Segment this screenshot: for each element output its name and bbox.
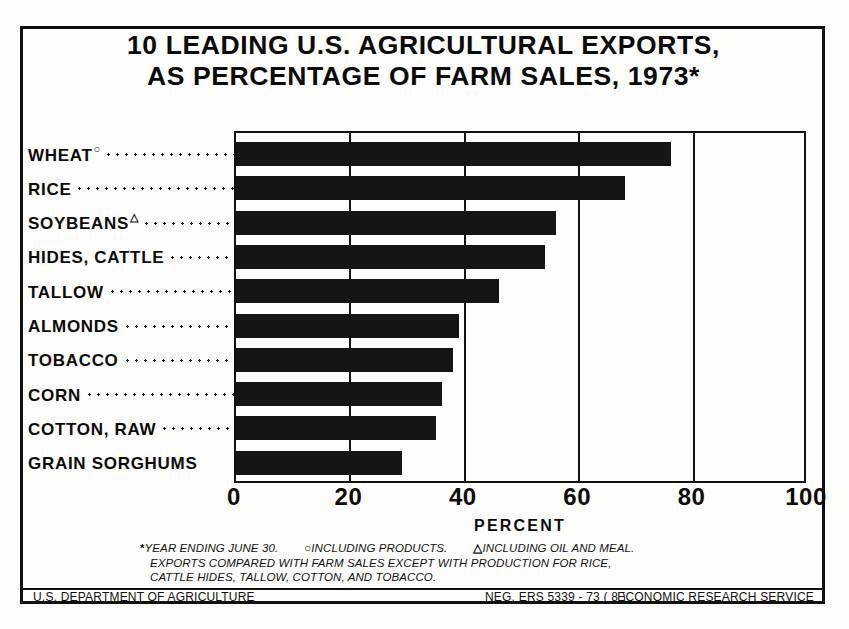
leader-dots — [85, 393, 234, 396]
bar-series — [236, 133, 804, 481]
leader-dots — [160, 427, 234, 430]
category-label-row: CORN — [28, 378, 234, 412]
bar — [236, 314, 459, 338]
plot-area — [234, 131, 806, 483]
footnote-line-2: EXPORTS COMPARED WITH FARM SALES EXCEPT … — [150, 556, 780, 571]
leader-dots — [123, 359, 234, 362]
leader-dots — [104, 153, 234, 156]
footer-neg-number: NEG. ERS 5339 - 73 ( 8 ) — [485, 590, 626, 604]
footer-service: ECONOMIC RESEARCH SERVICE — [617, 590, 814, 604]
category-label: CORN — [28, 387, 81, 404]
x-tick-label: 60 — [563, 483, 591, 511]
leader-dots — [75, 187, 234, 190]
x-axis-title: PERCENT — [234, 517, 806, 535]
title-line-1: 10 LEADING U.S. AGRICULTURAL EXPORTS, — [127, 30, 720, 60]
leader-dots — [142, 222, 234, 225]
category-label-row: COTTON, RAW — [28, 412, 234, 446]
bar — [236, 245, 545, 269]
footnote-triangle-text: INCLUDING OIL AND MEAL. — [482, 542, 634, 554]
category-label: COTTON, RAW — [28, 421, 156, 438]
bar — [236, 142, 671, 166]
circle-footnote-icon: ○ — [94, 144, 101, 155]
chart-page: 10 LEADING U.S. AGRICULTURAL EXPORTS, AS… — [0, 0, 849, 629]
page-title: 10 LEADING U.S. AGRICULTURAL EXPORTS, AS… — [26, 30, 821, 92]
footer-agency: U.S. DEPARTMENT OF AGRICULTURE — [33, 590, 255, 604]
category-label: RICE — [28, 181, 71, 198]
bar — [236, 176, 625, 200]
footnote-line-1: *YEAR ENDING JUNE 30.○INCLUDING PRODUCTS… — [140, 541, 780, 556]
leader-dots — [168, 256, 234, 259]
category-label-row: WHEAT○ — [28, 138, 234, 172]
category-label: SOYBEANS — [28, 215, 129, 232]
category-label-row: RICE — [28, 172, 234, 206]
category-label: GRAIN SORGHUMS — [28, 455, 197, 472]
category-label-row: ALMONDS — [28, 310, 234, 344]
category-label-row: TALLOW — [28, 275, 234, 309]
x-tick-label: 80 — [678, 483, 706, 511]
bar — [236, 348, 453, 372]
category-label: WHEAT — [28, 147, 93, 164]
leader-dots — [108, 290, 234, 293]
bar — [236, 382, 442, 406]
footnote-line-3: CATTLE HIDES, TALLOW, COTTON, AND TOBACC… — [150, 570, 780, 585]
category-label-row: TOBACCO — [28, 344, 234, 378]
title-line-2: AS PERCENTAGE OF FARM SALES, 1973* — [26, 61, 821, 92]
category-label: HIDES, CATTLE — [28, 249, 164, 266]
x-axis-tick-labels: 020406080100 — [234, 483, 806, 517]
category-label: TOBACCO — [28, 352, 119, 369]
category-label: TALLOW — [28, 284, 104, 301]
bar — [236, 211, 556, 235]
x-tick-label: 100 — [785, 483, 827, 511]
x-tick-label: 0 — [227, 483, 241, 511]
triangle-footnote-icon: △ — [130, 212, 138, 223]
x-tick-label: 40 — [449, 483, 477, 511]
category-label-row: GRAIN SORGHUMS — [28, 447, 234, 481]
bar — [236, 416, 436, 440]
footer: U.S. DEPARTMENT OF AGRICULTURE NEG. ERS … — [23, 590, 822, 604]
x-tick-label: 20 — [335, 483, 363, 511]
category-label-row: SOYBEANS△ — [28, 207, 234, 241]
category-label-column: WHEAT○RICESOYBEANS△HIDES, CATTLETALLOWAL… — [28, 131, 234, 481]
category-label-row: HIDES, CATTLE — [28, 241, 234, 275]
footnotes: *YEAR ENDING JUNE 30.○INCLUDING PRODUCTS… — [140, 541, 780, 585]
category-label: ALMONDS — [28, 318, 119, 335]
footnote-circle-text: INCLUDING PRODUCTS. — [311, 542, 447, 554]
leader-dots — [123, 325, 234, 328]
footnote-asterisk-text: YEAR ENDING JUNE 30. — [145, 542, 279, 554]
bar — [236, 279, 499, 303]
bar — [236, 451, 402, 475]
